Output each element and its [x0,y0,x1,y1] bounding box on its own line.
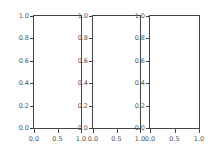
y-tick-label: 0.2 [19,102,29,110]
y-tick-label: 0.0 [19,124,29,132]
x-tick-mark [199,129,200,133]
y-tick-mark [146,106,150,107]
y-tick-mark [146,38,150,39]
y-tick-label: 0.4 [19,79,29,87]
y-tick-mark [89,16,93,17]
subplot-1: 0.00.20.40.60.81.00.00.51.0 [33,15,82,129]
x-tick-mark [93,129,94,133]
x-tick-mark [150,129,151,133]
y-tick-label: 0.2 [135,102,145,110]
x-tick-mark [34,129,35,133]
y-tick-label: 1.0 [78,12,88,20]
y-tick-label: 0.0 [78,124,88,132]
y-tick-mark [30,61,34,62]
x-tick-mark [117,129,118,133]
y-tick-label: 0.6 [135,57,145,65]
x-tick-label: 0.0 [86,135,100,143]
y-tick-mark [89,83,93,84]
y-tick-mark [30,83,34,84]
y-tick-mark [146,61,150,62]
y-tick-mark [89,38,93,39]
x-tick-label: 0.5 [110,135,124,143]
y-tick-mark [146,83,150,84]
y-tick-mark [30,16,34,17]
y-tick-label: 0.4 [78,79,88,87]
y-tick-label: 0.6 [19,57,29,65]
x-tick-label: 0.0 [27,135,41,143]
y-tick-mark [30,38,34,39]
y-tick-mark [146,16,150,17]
y-tick-label: 1.0 [19,12,29,20]
y-tick-label: 0.4 [135,79,145,87]
x-tick-label: 1.0 [192,135,206,143]
x-tick-label: 0.5 [168,135,182,143]
y-tick-label: 0.8 [19,34,29,42]
x-tick-label: 0.0 [143,135,157,143]
y-tick-label: 0.8 [78,34,88,42]
y-tick-label: 0.0 [135,124,145,132]
subplot-3: 0.00.20.40.60.81.00.00.51.0 [149,15,200,129]
y-tick-mark [30,106,34,107]
subplot-2: 0.00.20.40.60.81.00.00.51.0 [92,15,141,129]
x-tick-mark [58,129,59,133]
y-tick-mark [89,61,93,62]
y-tick-label: 1.0 [135,12,145,20]
y-tick-label: 0.8 [135,34,145,42]
y-tick-mark [89,106,93,107]
x-tick-label: 0.5 [51,135,65,143]
x-tick-mark [175,129,176,133]
y-tick-label: 0.6 [78,57,88,65]
y-tick-label: 0.2 [78,102,88,110]
